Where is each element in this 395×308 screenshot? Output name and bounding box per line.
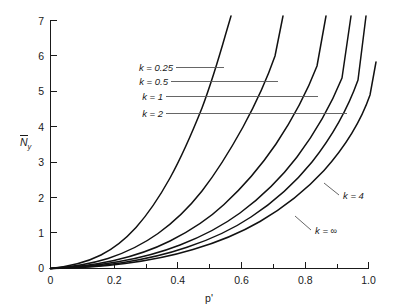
- x-ticklabel-0.2: 0.2: [107, 274, 122, 286]
- y-ticklabel-6: 6: [38, 50, 44, 62]
- y-ticklabel-4: 4: [38, 121, 44, 133]
- x-ticklabel-0.6: 0.6: [234, 274, 249, 286]
- label-k-4: k = 4: [343, 190, 364, 201]
- leader-lines-right: [295, 183, 339, 230]
- leader-k-infinity: [295, 216, 311, 230]
- y-ticklabel-3: 3: [38, 156, 44, 168]
- leader-lines-left: [166, 68, 347, 114]
- label-k-2: k = 2: [142, 108, 164, 119]
- chart-figure: 7 6 5 4 3 2 1 0 0 0.2 0.4 0.6 0.8 1.0 p'…: [0, 0, 395, 308]
- y-ticklabel-0: 0: [38, 262, 44, 274]
- leader-k-4: [324, 183, 339, 195]
- y-axis-label-sub: y: [27, 142, 33, 151]
- y-ticklabel-1: 1: [38, 227, 44, 239]
- y-ticklabels: 7 6 5 4 3 2 1 0: [38, 15, 44, 275]
- label-k-1: k = 1: [142, 91, 163, 102]
- x-ticklabel-0.4: 0.4: [171, 274, 186, 286]
- curve-k-0.25: [51, 16, 232, 269]
- label-k-infinity: k = ∞: [315, 225, 338, 236]
- annotations-group: k = 0.25 k = 0.5 k = 1 k = 2 k = 4 k = ∞: [139, 62, 364, 236]
- label-k-025: k = 0.25: [139, 62, 174, 73]
- y-ticklabel-7: 7: [38, 15, 44, 27]
- y-ticklabel-5: 5: [38, 85, 44, 97]
- x-ticklabels: 0 0.2 0.4 0.6 0.8 1.0: [48, 274, 376, 286]
- x-axis-label: p': [205, 292, 213, 304]
- x-ticklabel-0: 0: [48, 274, 54, 286]
- x-ticklabel-0.8: 0.8: [298, 274, 313, 286]
- curve-k-2: [51, 16, 352, 269]
- y-ticklabel-2: 2: [38, 192, 44, 204]
- x-ticklabel-1.0: 1.0: [361, 274, 376, 286]
- y-ticks: [51, 21, 57, 233]
- x-axis-label-text: p': [205, 292, 213, 304]
- curve-k-0.5: [51, 16, 284, 269]
- y-axis-label: Ny: [20, 136, 33, 152]
- label-k-05: k = 0.5: [139, 76, 168, 87]
- svg-text:Ny: Ny: [20, 136, 33, 151]
